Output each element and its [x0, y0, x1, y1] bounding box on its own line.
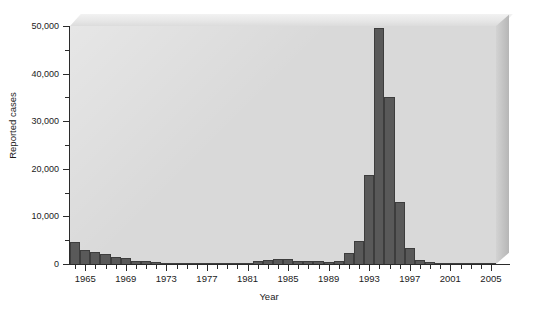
panel-right-bevel [496, 15, 509, 264]
x-tick-major [369, 264, 370, 271]
chart-figure: 50,00040,00030,00020,00010,0000 Year Rep… [0, 0, 538, 313]
y-tick [63, 264, 69, 265]
x-tick-minor [75, 264, 76, 269]
y-tick-minor [65, 97, 69, 98]
y-tick-label: 0 [54, 260, 59, 269]
x-tick-major [450, 264, 451, 271]
x-tick-minor [106, 264, 107, 269]
x-tick-minor [359, 264, 360, 269]
bar [344, 253, 354, 264]
x-tick-major [329, 264, 330, 271]
bar [405, 248, 415, 264]
x-tick-minor [461, 264, 462, 269]
bar [100, 254, 110, 264]
y-tick-minor [65, 50, 69, 51]
bar [90, 252, 100, 264]
bar [395, 202, 405, 264]
x-tick-minor [430, 264, 431, 269]
x-tick-label: 1973 [156, 274, 177, 284]
x-tick-minor [440, 264, 441, 269]
x-tick-major [248, 264, 249, 271]
x-tick-minor [481, 264, 482, 269]
x-tick-minor [217, 264, 218, 269]
x-tick-minor [400, 264, 401, 269]
bar [384, 97, 394, 264]
x-tick-minor [379, 264, 380, 269]
x-tick-minor [227, 264, 228, 269]
bar [364, 175, 374, 264]
y-tick-label: 20,000 [31, 165, 59, 174]
x-tick-major [491, 264, 492, 271]
y-tick-label: 40,000 [31, 70, 59, 79]
y-tick-label: 10,000 [31, 212, 59, 221]
x-tick-label: 2001 [440, 274, 461, 284]
y-tick-minor [65, 193, 69, 194]
x-tick-label: 1977 [196, 274, 217, 284]
x-tick-major [126, 264, 127, 271]
bar [354, 241, 364, 264]
y-tick [63, 74, 69, 75]
y-tick [63, 26, 69, 27]
y-tick [63, 121, 69, 122]
y-axis-title: Reported cases [7, 81, 18, 171]
x-tick-major [207, 264, 208, 271]
x-tick-minor [258, 264, 259, 269]
x-tick-label: 1965 [75, 274, 96, 284]
x-tick-label: 1969 [115, 274, 136, 284]
x-tick-label: 1993 [359, 274, 380, 284]
bar [111, 257, 121, 264]
x-tick-minor [278, 264, 279, 269]
bar [374, 28, 384, 264]
x-tick-major [166, 264, 167, 271]
y-tick [63, 169, 69, 170]
y-tick [63, 216, 69, 217]
x-tick-minor [177, 264, 178, 269]
x-tick-minor [146, 264, 147, 269]
x-tick-minor [197, 264, 198, 269]
y-tick-label: 50,000 [31, 22, 59, 31]
x-tick-major [288, 264, 289, 271]
x-tick-minor [349, 264, 350, 269]
x-tick-minor [308, 264, 309, 269]
x-tick-major [410, 264, 411, 271]
x-tick-minor [298, 264, 299, 269]
x-tick-minor [156, 264, 157, 269]
x-tick-minor [390, 264, 391, 269]
x-tick-minor [339, 264, 340, 269]
bar-series [70, 26, 496, 264]
bar [80, 250, 90, 264]
x-tick-minor [237, 264, 238, 269]
y-tick-minor [65, 240, 69, 241]
bar [70, 242, 80, 264]
y-tick-label: 30,000 [31, 117, 59, 126]
x-tick-label: 1989 [318, 274, 339, 284]
x-tick-minor [471, 264, 472, 269]
x-tick-label: 2005 [480, 274, 501, 284]
x-tick-label: 1997 [399, 274, 420, 284]
x-tick-minor [187, 264, 188, 269]
x-tick-minor [136, 264, 137, 269]
x-tick-label: 1985 [277, 274, 298, 284]
x-tick-major [85, 264, 86, 271]
x-tick-minor [420, 264, 421, 269]
x-tick-label: 1981 [237, 274, 258, 284]
x-axis-title: Year [0, 291, 538, 302]
x-tick-minor [319, 264, 320, 269]
panel-top-bevel [70, 14, 513, 26]
x-tick-minor [116, 264, 117, 269]
x-tick-minor [95, 264, 96, 269]
y-tick-minor [65, 145, 69, 146]
x-tick-minor [268, 264, 269, 269]
y-axis-line [69, 26, 70, 265]
